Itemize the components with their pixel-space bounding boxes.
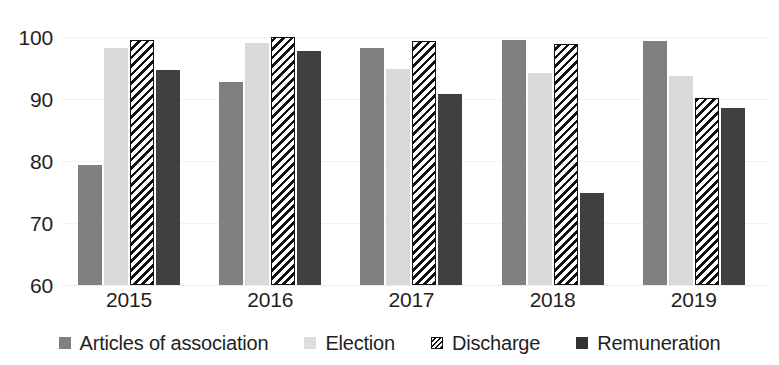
bar-2017-articles-of-association [360, 48, 384, 285]
legend-item-articles-of-association[interactable]: Articles of association [59, 333, 269, 353]
bar-group-2018 [486, 37, 627, 285]
legend-label: Remuneration [597, 333, 720, 353]
bar-2017-election [386, 69, 410, 285]
legend-swatch-articles-icon [59, 337, 71, 349]
legend-swatch-election-icon [304, 337, 316, 349]
bar-2017-discharge [412, 41, 436, 285]
bar-group-2015 [62, 37, 203, 285]
x-axis-tick-label: 2018 [530, 289, 576, 310]
bar-2019-discharge [695, 98, 719, 285]
bar-2015-articles-of-association [78, 165, 102, 285]
gridline [62, 285, 768, 286]
x-axis-tick-label: 2019 [671, 289, 717, 310]
bar-2017-remuneration [438, 94, 462, 285]
x-axis-tick-label: 2015 [106, 289, 152, 310]
bar-2015-election [104, 48, 128, 285]
legend-item-discharge[interactable]: Discharge [431, 333, 540, 353]
bar-group-2016 [203, 37, 344, 285]
bar-2015-discharge [130, 40, 154, 285]
bar-2018-election [528, 73, 552, 285]
legend-item-remuneration[interactable]: Remuneration [576, 333, 720, 353]
bar-2019-remuneration [721, 108, 745, 285]
bar-chart: 60708090100 20152016201720182019 Article… [0, 0, 779, 365]
bar-group-2019 [627, 37, 768, 285]
bar-2015-remuneration [156, 70, 180, 285]
x-axis-tick-label: 2017 [388, 289, 434, 310]
legend-item-election[interactable]: Election [304, 333, 395, 353]
plot-area [62, 37, 768, 285]
y-axis: 60708090100 [0, 0, 62, 325]
legend-label: Discharge [452, 333, 540, 353]
bar-2016-remuneration [297, 51, 321, 285]
bar-2019-election [669, 76, 693, 285]
bar-2018-remuneration [580, 193, 604, 285]
x-axis: 20152016201720182019 [62, 289, 768, 319]
y-axis-tick-label: 90 [30, 89, 53, 110]
bar-2019-articles-of-association [643, 41, 667, 285]
y-axis-tick-label: 100 [19, 27, 53, 48]
bar-2018-discharge [554, 44, 578, 285]
bar-2016-election [245, 43, 269, 285]
bar-2016-articles-of-association [219, 82, 243, 285]
legend-swatch-remuneration-icon [576, 337, 588, 349]
legend-label: Articles of association [80, 333, 269, 353]
y-axis-tick-label: 70 [30, 213, 53, 234]
legend-swatch-discharge-icon [431, 337, 443, 349]
bar-2016-discharge [271, 37, 295, 285]
bar-2018-articles-of-association [502, 40, 526, 285]
legend-label: Election [325, 333, 395, 353]
x-axis-tick-label: 2016 [247, 289, 293, 310]
y-axis-tick-label: 80 [30, 151, 53, 172]
bar-group-2017 [344, 37, 485, 285]
y-axis-tick-label: 60 [30, 275, 53, 296]
chart-legend: Articles of associationElectionDischarge… [0, 326, 779, 360]
